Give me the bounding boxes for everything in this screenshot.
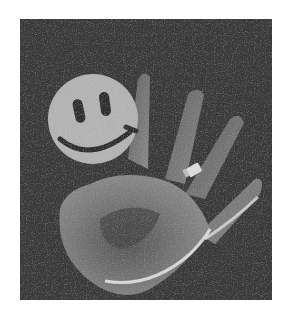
photo-illustration — [20, 19, 272, 300]
photo-hand-smiley — [20, 19, 272, 300]
